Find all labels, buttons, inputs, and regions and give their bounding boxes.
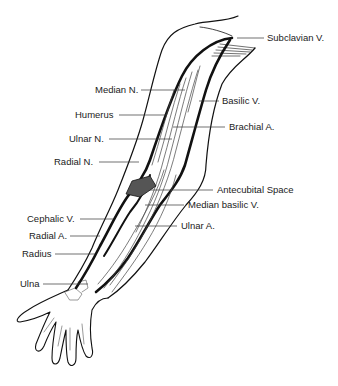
label-radial-n: Radial N. [54,156,93,167]
antecubital-space-area [126,176,156,197]
label-median-n: Median N. [95,84,138,95]
label-ulnar-a: Ulnar A. [181,220,215,231]
label-humerus: Humerus [75,109,114,120]
label-radial-a: Radial A. [29,230,67,241]
label-ulnar-n: Ulnar N. [69,133,104,144]
label-cephalic-v: Cephalic V. [27,213,75,224]
label-radius: Radius [22,248,52,259]
label-antecubital-space: Antecubital Space [217,184,294,195]
label-median-basilic-v: Median basilic V. [188,199,259,210]
label-basilic-v: Basilic V. [222,95,260,106]
arm-anatomy-diagram: Subclavian V.Median N.Basilic V.HumerusB… [0,0,338,386]
label-brachial-a: Brachial A. [229,121,274,132]
label-subclavian-v: Subclavian V. [267,32,324,43]
label-ulna: Ulna [20,278,40,289]
